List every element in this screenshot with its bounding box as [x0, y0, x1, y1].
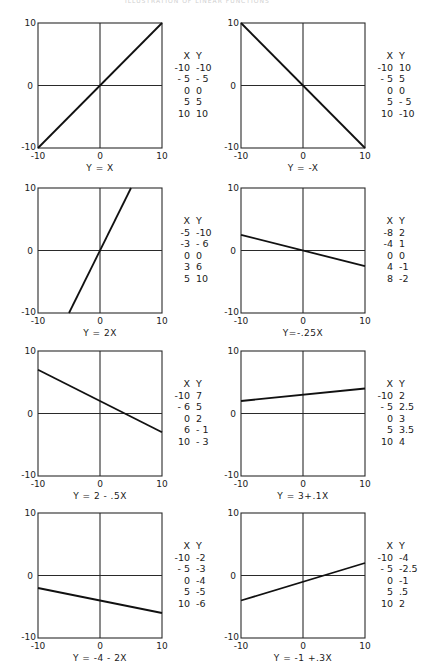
x-value: -10: [371, 552, 399, 564]
x-tick-zero: 0: [300, 316, 306, 326]
y-tick-zero: 0: [27, 571, 33, 581]
x-value: 5: [371, 96, 399, 108]
x-value: - 5: [371, 73, 399, 85]
chart-panel-4: 10 0 -10 -10 0 10 Y=-.25X XY-82-41004-18…: [203, 165, 418, 330]
y-value: 2: [399, 598, 423, 610]
equation-label: Y = -4 - 2X: [38, 653, 162, 663]
table-row: 5- 5: [371, 96, 423, 108]
chart-panel-6: 10 0 -10 -10 0 10 Y = 3+.1X XY-102- 52.5…: [203, 328, 418, 493]
col-x-header: X: [371, 215, 399, 227]
y-tick-max: 10: [25, 508, 37, 518]
table-row: 10-10: [371, 108, 423, 120]
y-value: -2: [399, 273, 423, 285]
table-row: -1010: [371, 62, 423, 74]
x-value: - 6: [168, 401, 196, 413]
x-value: 10: [168, 436, 196, 448]
x-tick-max: 10: [156, 151, 168, 161]
x-tick-min: -10: [234, 641, 249, 651]
y-value: 0: [399, 250, 423, 262]
y-value: 4: [399, 436, 423, 448]
col-y-header: Y: [399, 378, 423, 390]
col-x-header: X: [168, 215, 196, 227]
x-value: - 5: [168, 563, 196, 575]
x-value: 0: [168, 85, 196, 97]
x-tick-max: 10: [156, 641, 168, 651]
y-value: 5: [399, 73, 423, 85]
y-value: 10: [399, 62, 423, 74]
x-value: 0: [371, 85, 399, 97]
col-x-header: X: [371, 540, 399, 552]
x-value: -5: [168, 227, 196, 239]
y-value: 2.5: [399, 401, 423, 413]
table-row: 0-1: [371, 575, 423, 587]
y-value: - 5: [399, 96, 423, 108]
x-value: 8: [371, 273, 399, 285]
y-value: -4: [399, 552, 423, 564]
x-value: 10: [371, 436, 399, 448]
x-value: -10: [371, 62, 399, 74]
x-value: 10: [371, 598, 399, 610]
table-row: 4-1: [371, 261, 423, 273]
x-value: 5: [168, 586, 196, 598]
x-value: 10: [371, 108, 399, 120]
chart-panel-5: 10 0 -10 -10 0 10 Y = 2 - .5X XY-107- 65…: [0, 328, 215, 493]
x-value: 5: [371, 424, 399, 436]
x-tick-min: -10: [234, 151, 249, 161]
y-value: 3.5: [399, 424, 423, 436]
x-value: 6: [168, 424, 196, 436]
x-tick-zero: 0: [97, 479, 103, 489]
x-value: 5: [168, 96, 196, 108]
table-header: XY: [371, 378, 423, 390]
x-tick-zero: 0: [97, 641, 103, 651]
table-row: - 5-2.5: [371, 563, 423, 575]
y-tick-zero: 0: [230, 246, 236, 256]
y-value: -1: [399, 575, 423, 587]
x-tick-max: 10: [359, 479, 371, 489]
y-tick-max: 10: [228, 346, 240, 356]
x-value: 0: [168, 250, 196, 262]
x-value: 0: [371, 250, 399, 262]
x-tick-min: -10: [31, 316, 46, 326]
x-tick-max: 10: [359, 316, 371, 326]
x-value: 0: [168, 575, 196, 587]
y-value: -1: [399, 261, 423, 273]
col-x-header: X: [371, 378, 399, 390]
col-y-header: Y: [399, 215, 423, 227]
x-value: - 5: [168, 73, 196, 85]
x-value: 5: [168, 273, 196, 285]
table-row: 8-2: [371, 273, 423, 285]
table-row: -102: [371, 390, 423, 402]
table-row: - 55: [371, 73, 423, 85]
x-tick-min: -10: [31, 641, 46, 651]
table-row: 5.5: [371, 586, 423, 598]
table-row: -82: [371, 227, 423, 239]
col-y-header: Y: [399, 50, 423, 62]
col-y-header: Y: [399, 540, 423, 552]
table-row: -41: [371, 238, 423, 250]
y-value: 3: [399, 413, 423, 425]
x-value: -3: [168, 238, 196, 250]
table-header: XY: [371, 50, 423, 62]
y-value: .5: [399, 586, 423, 598]
x-tick-max: 10: [359, 641, 371, 651]
xy-table: XY-1010- 55005- 510-10: [371, 50, 423, 119]
x-value: 0: [371, 575, 399, 587]
x-value: 3: [168, 261, 196, 273]
table-row: 104: [371, 436, 423, 448]
col-x-header: X: [168, 50, 196, 62]
x-tick-max: 10: [156, 316, 168, 326]
y-tick-max: 10: [25, 346, 37, 356]
y-tick-zero: 0: [230, 571, 236, 581]
table-row: -10-4: [371, 552, 423, 564]
x-value: -10: [168, 62, 196, 74]
y-tick-zero: 0: [230, 409, 236, 419]
y-value: 0: [399, 85, 423, 97]
x-tick-zero: 0: [97, 316, 103, 326]
y-value: 2: [399, 390, 423, 402]
x-tick-min: -10: [31, 479, 46, 489]
equation-label: Y = -1 +.3X: [241, 653, 365, 663]
y-value: -10: [399, 108, 423, 120]
table-row: 03: [371, 413, 423, 425]
y-tick-zero: 0: [27, 81, 33, 91]
x-value: 0: [371, 413, 399, 425]
